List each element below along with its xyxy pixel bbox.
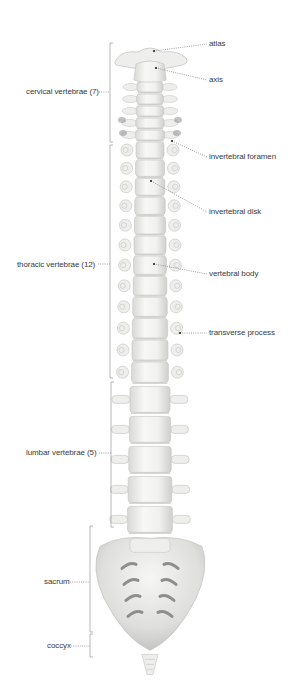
vertebral-body (133, 297, 167, 316)
label-vertebral-body: vertebral body (209, 269, 258, 279)
transverse-process (111, 455, 129, 463)
foramen-shadow (173, 130, 181, 136)
transverse-process (110, 515, 128, 523)
label-cervical-vertebrae: cervical vertebrae (7) (26, 87, 99, 97)
thoracic-vertebra (120, 197, 180, 215)
lumbar-vertebra (110, 476, 190, 503)
transverse-process (162, 108, 178, 115)
cervical-vertebra (122, 118, 178, 129)
thoracic-bracket (98, 145, 113, 378)
leader-dot (153, 50, 155, 52)
vertebral-body (137, 82, 163, 92)
transverse-process (123, 84, 139, 91)
vertebral-body (135, 197, 165, 214)
vertebral-body (136, 160, 165, 176)
vertebral-body (128, 506, 173, 532)
label-transverse-process: transverse process (209, 328, 275, 338)
transverse-process (122, 108, 138, 115)
vertebral-body (130, 386, 170, 412)
thoracic-vertebra (117, 340, 183, 361)
vertebral-body (132, 362, 169, 382)
thoracic-vertebra (121, 142, 179, 159)
label-sacrum: sacrum (44, 577, 70, 587)
leader-dot (171, 140, 173, 142)
transverse-process (161, 96, 177, 103)
thoracic-vertebra (119, 236, 181, 255)
cervical-bracket (99, 43, 113, 142)
vertebral-body (129, 416, 170, 442)
vertebral-body (137, 94, 164, 104)
thoracic-vertebra (117, 318, 182, 338)
transverse-process (112, 395, 130, 403)
transverse-process (172, 515, 190, 523)
sacral-base (130, 538, 170, 552)
vertebral-body (134, 216, 165, 234)
thoracic-vertebra (118, 297, 182, 317)
vertebral-body (129, 446, 171, 472)
coccyx-bracket (71, 634, 93, 657)
foramen-shadow (118, 117, 126, 123)
vertebral-body (134, 236, 166, 254)
thoracic-vertebra (117, 362, 184, 383)
lumbar-vertebra (110, 506, 191, 533)
lumbar-bracket (99, 382, 114, 527)
thoracic-vertebra (119, 216, 180, 234)
label-lumbar-vertebrae: lumbar vertebrae (5) (26, 448, 96, 458)
transverse-process (172, 485, 190, 493)
transverse-leader (179, 332, 207, 334)
leader-dot (179, 332, 181, 334)
label-thoracic-vertebrae: thoracic vertebrae (12) (17, 260, 95, 270)
vertebral-body (132, 318, 167, 338)
cervical-vertebra (121, 130, 178, 141)
sacrum-bone (96, 537, 205, 650)
label-coccyx: coccyx (47, 641, 71, 651)
transverse-process (111, 425, 129, 433)
leader-dot (153, 263, 155, 265)
axis-vertebra (134, 61, 166, 83)
cervical-vertebra (123, 82, 177, 93)
cervical-vertebra (123, 94, 178, 105)
leader-line (154, 44, 207, 51)
lumbar-vertebra (112, 386, 188, 413)
lumbar-vertebra (111, 416, 188, 443)
sacrum-bracket (70, 526, 93, 632)
lumbar-vertebra (111, 446, 189, 473)
vertebral-body (136, 118, 164, 128)
label-atlas: atlas (209, 39, 225, 49)
transverse-process (161, 84, 177, 91)
transverse-process (123, 96, 139, 103)
thoracic-vertebra (118, 276, 182, 296)
vertebral-body (132, 340, 168, 360)
vertebral-body (133, 276, 167, 295)
transverse-process (171, 425, 189, 433)
vertebral-body (136, 106, 164, 116)
thoracic-vertebra (119, 256, 182, 275)
foramen-shadow (119, 130, 127, 136)
label-axis: axis (209, 75, 223, 85)
leader-dot (155, 67, 157, 69)
thoracic-vertebra (121, 160, 180, 177)
cervical-vertebra (122, 106, 178, 117)
leader-dot (150, 180, 152, 182)
transverse-process (170, 395, 188, 403)
label-intervertebral-foramen: invertebral foramen (209, 152, 276, 162)
atlas-leader (153, 44, 207, 52)
label-intervertebral-disk: invertebral disk (209, 207, 261, 217)
spine-diagram: cervical vertebrae (7) thoracic vertebra… (0, 0, 296, 698)
vertebral-body (128, 476, 172, 502)
vertebral-body (136, 142, 164, 158)
foramen-shadow (174, 117, 182, 123)
spine-illustration (0, 0, 296, 698)
vertebral-body (135, 130, 164, 140)
transverse-process (171, 455, 189, 463)
transverse-process (110, 485, 128, 493)
